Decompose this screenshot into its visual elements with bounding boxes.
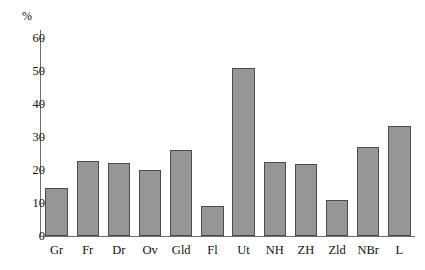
- x-tick-label-fl: Fl: [197, 244, 228, 257]
- bar-gld: [170, 150, 192, 236]
- y-tick: 50: [0, 71, 45, 72]
- bar-fr: [77, 161, 99, 236]
- y-tick-mark: [40, 236, 45, 237]
- bar-column: [170, 30, 192, 236]
- bar-column: [201, 30, 223, 236]
- x-tick-label-l: L: [384, 244, 415, 257]
- bar-column: [45, 30, 67, 236]
- y-tick: 10: [0, 203, 45, 204]
- bar-dr: [108, 163, 130, 236]
- bar-ut: [232, 68, 254, 236]
- y-axis-label: %: [22, 10, 32, 22]
- bar-column: [77, 30, 99, 236]
- y-tick: 0: [0, 236, 45, 237]
- y-tick: 60: [0, 38, 45, 39]
- y-tick: 40: [0, 104, 45, 105]
- y-tick: 30: [0, 137, 45, 138]
- y-tick: 20: [0, 170, 45, 171]
- bar-column: [295, 30, 317, 236]
- x-tick-label-dr: Dr: [103, 244, 134, 257]
- bar-column: [108, 30, 130, 236]
- x-tick-label-ov: Ov: [135, 244, 166, 257]
- bar-gr: [45, 188, 67, 236]
- bar-zh: [295, 164, 317, 236]
- x-tick-label-zld: Zld: [322, 244, 353, 257]
- bar-fl: [201, 206, 223, 236]
- bar-column: [326, 30, 348, 236]
- x-tick-label-ut: Ut: [228, 244, 259, 257]
- x-tick-label-nh: NH: [259, 244, 290, 257]
- bar-column: [264, 30, 286, 236]
- bar-l: [388, 126, 410, 236]
- bar-nh: [264, 162, 286, 236]
- plot-area: [41, 30, 415, 236]
- bar-column: [388, 30, 410, 236]
- x-tick-label-nbr: NBr: [353, 244, 384, 257]
- bar-zld: [326, 200, 348, 236]
- x-tick-label-zh: ZH: [290, 244, 321, 257]
- x-tick-label-gr: Gr: [41, 244, 72, 257]
- bar-column: [357, 30, 379, 236]
- bar-ov: [139, 170, 161, 236]
- x-tick-label-gld: Gld: [166, 244, 197, 257]
- x-tick-label-fr: Fr: [72, 244, 103, 257]
- bar-column: [139, 30, 161, 236]
- x-axis-line: [40, 236, 415, 237]
- bar-nbr: [357, 147, 379, 236]
- bar-column: [232, 30, 254, 236]
- bar-chart: % 0102030405060 GrFrDrOvGldFlUtNHZHZldNB…: [0, 0, 425, 270]
